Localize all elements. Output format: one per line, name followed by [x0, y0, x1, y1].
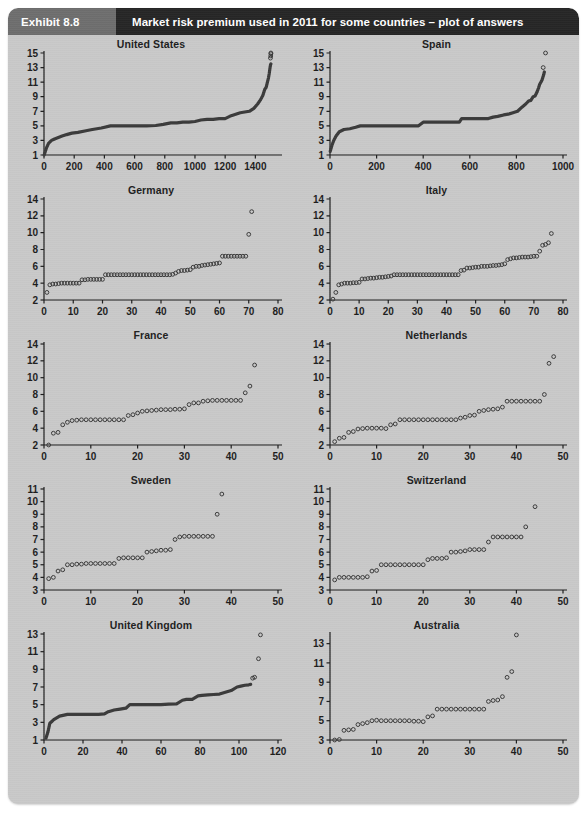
- svg-text:10: 10: [27, 372, 39, 383]
- chart-spain: Spain 1357911131502004006008001000: [294, 35, 579, 181]
- svg-text:0: 0: [41, 746, 47, 757]
- svg-text:120: 120: [270, 746, 287, 757]
- svg-text:40: 40: [226, 451, 238, 462]
- svg-text:0: 0: [41, 451, 47, 462]
- svg-text:40: 40: [226, 596, 238, 607]
- svg-text:50: 50: [185, 306, 197, 317]
- svg-text:400: 400: [415, 161, 432, 172]
- chart-plot-4: 246810121401020304050: [8, 326, 294, 471]
- svg-text:6: 6: [318, 261, 324, 272]
- svg-text:50: 50: [272, 451, 284, 462]
- svg-text:10: 10: [313, 372, 325, 383]
- svg-text:6: 6: [318, 547, 324, 558]
- svg-text:400: 400: [96, 161, 113, 172]
- svg-text:10: 10: [371, 451, 383, 462]
- svg-text:10: 10: [85, 596, 97, 607]
- chart-plot-8: 135791113020406080100120: [8, 616, 294, 766]
- chart-united-kingdom: United Kingdom 135791113020406080100120: [8, 616, 294, 766]
- svg-text:6: 6: [32, 547, 38, 558]
- chart-netherlands: Netherlands 246810121401020304050: [294, 326, 579, 471]
- chart-cell-1: Spain 1357911131502004006008001000: [294, 35, 579, 181]
- svg-text:7: 7: [318, 106, 324, 117]
- svg-text:6: 6: [32, 261, 38, 272]
- svg-text:3: 3: [32, 135, 38, 146]
- svg-text:100: 100: [231, 746, 248, 757]
- svg-text:2: 2: [318, 295, 324, 306]
- svg-text:11: 11: [27, 77, 38, 88]
- chart-plot-7: 3456789101101020304050: [294, 471, 579, 616]
- svg-text:50: 50: [557, 746, 569, 757]
- svg-text:40: 40: [155, 306, 167, 317]
- svg-text:5: 5: [32, 559, 38, 570]
- svg-text:7: 7: [32, 106, 38, 117]
- chart-cell-2: Germany 246810121401020304050607080: [8, 181, 294, 326]
- svg-text:1000: 1000: [184, 161, 207, 172]
- svg-text:1: 1: [32, 150, 38, 161]
- svg-text:3: 3: [318, 585, 324, 596]
- chart-switzerland: Switzerland 3456789101101020304050: [294, 471, 579, 616]
- chart-cell-0: United States 13579111315020040060080010…: [8, 35, 294, 181]
- svg-text:30: 30: [464, 596, 476, 607]
- svg-text:12: 12: [313, 355, 325, 366]
- svg-text:20: 20: [418, 746, 430, 757]
- svg-text:30: 30: [179, 451, 191, 462]
- svg-text:11: 11: [313, 658, 324, 669]
- svg-text:800: 800: [508, 161, 525, 172]
- svg-text:600: 600: [126, 161, 143, 172]
- svg-text:50: 50: [272, 596, 284, 607]
- svg-text:6: 6: [32, 406, 38, 417]
- svg-text:13: 13: [27, 629, 39, 640]
- svg-text:60: 60: [214, 306, 226, 317]
- chart-cell-3: Italy 246810121401020304050607080: [294, 181, 579, 326]
- svg-text:8: 8: [318, 244, 324, 255]
- svg-text:0: 0: [327, 746, 333, 757]
- svg-text:11: 11: [313, 77, 324, 88]
- svg-text:1: 1: [32, 735, 38, 746]
- svg-text:7: 7: [32, 534, 38, 545]
- svg-text:50: 50: [557, 596, 569, 607]
- svg-text:40: 40: [116, 746, 128, 757]
- svg-text:80: 80: [272, 306, 284, 317]
- svg-text:4: 4: [32, 572, 38, 583]
- svg-text:0: 0: [41, 306, 47, 317]
- svg-text:1400: 1400: [244, 161, 267, 172]
- exhibit-header: Exhibit 8.8 Market risk premium used in …: [8, 8, 579, 35]
- svg-text:2: 2: [318, 440, 324, 451]
- svg-text:50: 50: [470, 306, 482, 317]
- svg-text:30: 30: [126, 306, 138, 317]
- svg-text:8: 8: [318, 389, 324, 400]
- svg-text:2: 2: [32, 440, 38, 451]
- svg-text:14: 14: [27, 194, 39, 205]
- svg-text:2: 2: [32, 295, 38, 306]
- svg-text:5: 5: [32, 120, 38, 131]
- chart-united-states: United States 13579111315020040060080010…: [8, 35, 294, 181]
- svg-text:4: 4: [318, 278, 324, 289]
- svg-text:9: 9: [32, 509, 38, 520]
- svg-text:10: 10: [354, 306, 366, 317]
- svg-text:10: 10: [313, 227, 325, 238]
- svg-text:200: 200: [66, 161, 83, 172]
- exhibit-number-label: Exhibit 8.8: [8, 8, 116, 35]
- chart-plot-2: 246810121401020304050607080: [8, 181, 294, 326]
- svg-text:8: 8: [32, 389, 38, 400]
- svg-text:1000: 1000: [552, 161, 575, 172]
- svg-text:14: 14: [27, 339, 39, 350]
- svg-text:13: 13: [27, 62, 39, 73]
- svg-text:12: 12: [313, 210, 325, 221]
- svg-text:60: 60: [155, 746, 167, 757]
- exhibit-page: Exhibit 8.8 Market risk premium used in …: [0, 0, 587, 825]
- svg-text:8: 8: [32, 244, 38, 255]
- chart-cell-9: Australia 3579111301020304050: [294, 616, 579, 766]
- svg-text:7: 7: [318, 696, 324, 707]
- svg-text:10: 10: [27, 227, 39, 238]
- chart-cell-8: United Kingdom 135791113020406080100120: [8, 616, 294, 766]
- svg-text:8: 8: [318, 521, 324, 532]
- svg-text:0: 0: [41, 596, 47, 607]
- svg-text:10: 10: [68, 306, 80, 317]
- chart-plot-0: 135791113150200400600800100012001400: [8, 35, 294, 181]
- svg-text:3: 3: [318, 135, 324, 146]
- chart-plot-6: 3456789101101020304050: [8, 471, 294, 616]
- svg-text:30: 30: [464, 746, 476, 757]
- svg-text:80: 80: [194, 746, 206, 757]
- svg-text:4: 4: [32, 423, 38, 434]
